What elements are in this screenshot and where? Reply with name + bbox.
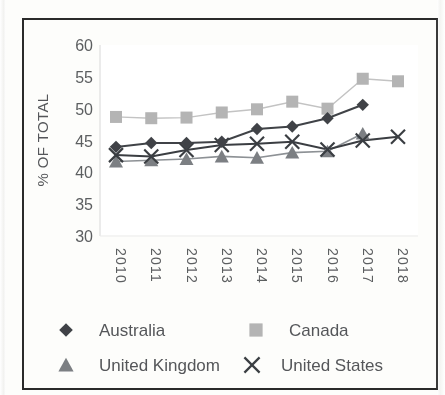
legend-label: United Kingdom bbox=[99, 356, 220, 375]
x-tick-label: 2011 bbox=[148, 248, 164, 283]
y-axis-title-text: % OF TOTAL bbox=[34, 93, 51, 186]
y-tick-label: 50 bbox=[75, 101, 93, 118]
legend-diamond-marker bbox=[59, 323, 73, 337]
legend-label: Canada bbox=[289, 321, 349, 340]
y-tick-label: 40 bbox=[75, 164, 93, 181]
legend-item-australia[interactable]: Australia bbox=[42, 321, 166, 340]
legend-square-marker bbox=[249, 323, 262, 336]
y-tick-label: 45 bbox=[75, 133, 93, 150]
square-marker bbox=[357, 73, 369, 85]
y-tick-label: 55 bbox=[75, 69, 93, 86]
legend-item-united-kingdom[interactable]: United Kingdom bbox=[42, 356, 220, 375]
chart-figure: % OF TOTAL 30354045505560 20102011201220… bbox=[0, 0, 445, 395]
y-tick-labels: 30354045505560 bbox=[75, 37, 93, 245]
legend-label: United States bbox=[281, 356, 383, 375]
x-tick-label: 2014 bbox=[254, 248, 270, 284]
square-marker bbox=[110, 111, 122, 123]
x-tick-label: 2015 bbox=[289, 248, 305, 284]
square-marker bbox=[251, 103, 263, 115]
line-chart: % OF TOTAL 30354045505560 20102011201220… bbox=[0, 0, 445, 395]
square-marker bbox=[286, 96, 298, 108]
square-marker bbox=[392, 75, 404, 87]
legend-label: Australia bbox=[99, 321, 166, 340]
x-tick-label: 2017 bbox=[360, 248, 376, 284]
x-tick-label: 2016 bbox=[325, 248, 341, 284]
y-axis-title: % OF TOTAL bbox=[34, 93, 51, 186]
square-marker bbox=[145, 112, 157, 124]
y-tick-label: 35 bbox=[75, 196, 93, 213]
square-marker bbox=[216, 106, 228, 118]
x-tick-labels: 201020112012201320142015201620172018 bbox=[113, 248, 411, 284]
square-marker bbox=[181, 112, 193, 124]
x-tick-label: 2010 bbox=[113, 248, 129, 284]
chart-legend: AustraliaCanadaUnited KingdomUnited Stat… bbox=[42, 321, 383, 375]
x-tick-label: 2018 bbox=[395, 248, 411, 284]
legend-item-canada[interactable]: Canada bbox=[232, 321, 349, 340]
x-tick-label: 2013 bbox=[219, 248, 235, 284]
x-tick-label: 2012 bbox=[184, 248, 200, 284]
y-tick-label: 60 bbox=[75, 37, 93, 54]
legend-item-united-states[interactable]: United States bbox=[232, 356, 383, 375]
y-tick-label: 30 bbox=[75, 228, 93, 245]
